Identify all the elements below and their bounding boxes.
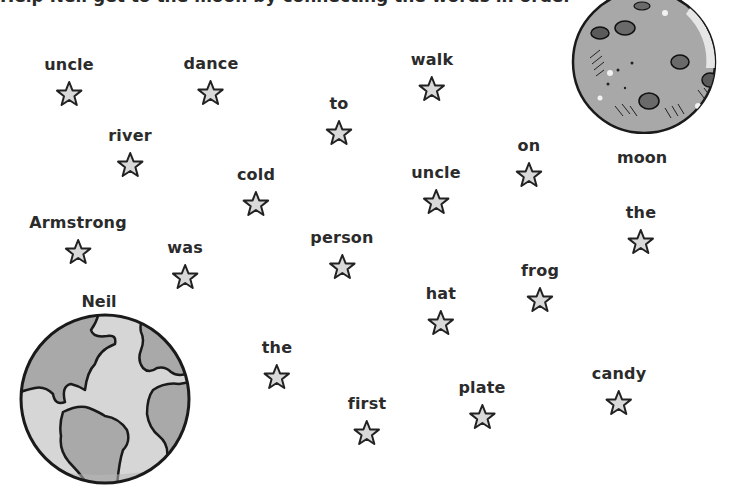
star-icon bbox=[627, 228, 655, 255]
star-icon bbox=[526, 286, 554, 313]
star-word-label: river bbox=[108, 127, 152, 145]
star-word-label: on bbox=[515, 137, 543, 155]
star-word-label: uncle bbox=[411, 164, 461, 182]
star-icon bbox=[263, 363, 291, 390]
star-word-label: plate bbox=[458, 379, 505, 397]
star-word-walk[interactable]: walk bbox=[411, 51, 454, 102]
moon-label: moon bbox=[617, 148, 667, 167]
star-icon bbox=[515, 161, 543, 188]
star-icon bbox=[325, 119, 353, 146]
star-icon bbox=[605, 389, 633, 416]
star-icon bbox=[427, 309, 455, 336]
moon bbox=[570, 0, 720, 138]
star-word-label: walk bbox=[411, 51, 454, 69]
star-icon bbox=[171, 263, 199, 290]
star-word-label: to bbox=[325, 95, 353, 113]
star-icon bbox=[242, 190, 270, 217]
star-word-label: hat bbox=[426, 285, 456, 303]
star-word-person[interactable]: person bbox=[310, 229, 373, 280]
star-word-label: Armstrong bbox=[29, 214, 127, 232]
star-word-to[interactable]: to bbox=[325, 95, 353, 146]
star-icon bbox=[116, 151, 144, 178]
star-word-dance[interactable]: dance bbox=[184, 55, 239, 106]
star-word-label: person bbox=[310, 229, 373, 247]
star-word-label: dance bbox=[184, 55, 239, 73]
star-word-label: frog bbox=[521, 262, 559, 280]
star-icon bbox=[55, 80, 83, 107]
star-word-frog[interactable]: frog bbox=[521, 262, 559, 313]
star-word-label: first bbox=[348, 395, 387, 413]
star-word-candy[interactable]: candy bbox=[592, 365, 647, 416]
star-word-cold[interactable]: cold bbox=[237, 166, 275, 217]
star-word-label: uncle bbox=[44, 56, 94, 74]
star-word-armstrong[interactable]: Armstrong bbox=[29, 214, 127, 265]
star-word-river[interactable]: river bbox=[108, 127, 152, 178]
star-icon bbox=[197, 79, 225, 106]
star-word-label: the bbox=[262, 339, 293, 357]
earth-label: Neil bbox=[81, 292, 116, 311]
star-word-label: cold bbox=[237, 166, 275, 184]
star-icon bbox=[328, 253, 356, 280]
star-word-hat[interactable]: hat bbox=[426, 285, 456, 336]
star-word-was[interactable]: was bbox=[167, 239, 203, 290]
star-word-plate[interactable]: plate bbox=[458, 379, 505, 430]
star-icon bbox=[64, 238, 92, 265]
star-word-label: the bbox=[626, 204, 657, 222]
moon-icon bbox=[570, 0, 720, 134]
star-word-on[interactable]: on bbox=[515, 137, 543, 188]
star-icon bbox=[422, 188, 450, 215]
star-word-first[interactable]: first bbox=[348, 395, 387, 446]
earth-icon bbox=[19, 312, 191, 486]
star-word-the[interactable]: the bbox=[262, 339, 293, 390]
star-icon bbox=[468, 403, 496, 430]
star-word-label: candy bbox=[592, 365, 647, 383]
star-word-uncle[interactable]: uncle bbox=[411, 164, 461, 215]
star-word-uncle[interactable]: uncle bbox=[44, 56, 94, 107]
star-icon bbox=[418, 75, 446, 102]
earth bbox=[19, 312, 191, 488]
star-word-the[interactable]: the bbox=[626, 204, 657, 255]
star-word-label: was bbox=[167, 239, 203, 257]
star-icon bbox=[353, 419, 381, 446]
